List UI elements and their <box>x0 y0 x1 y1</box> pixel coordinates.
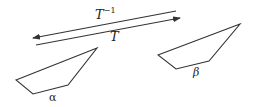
beta-label: β <box>193 67 199 78</box>
alpha-shape <box>16 48 97 94</box>
transform-label: T <box>110 30 119 43</box>
beta-shape <box>158 24 240 69</box>
inverse-transform-label-base: T <box>95 7 104 22</box>
transform-arrow <box>36 18 180 45</box>
alpha-label: α <box>49 92 56 103</box>
inverse-transform-label-exponent: −1 <box>104 6 116 15</box>
diagram-svg <box>0 0 254 107</box>
inverse-transform-label: T−1 <box>95 8 115 21</box>
diagram-canvas: T−1 T α β <box>0 0 254 107</box>
